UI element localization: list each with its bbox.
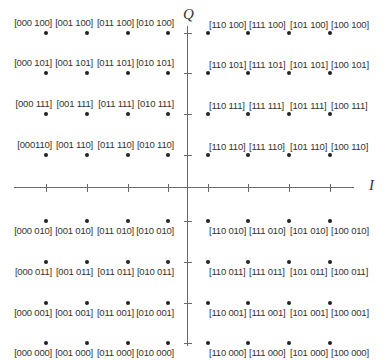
point-label: [000 100]	[14, 17, 52, 28]
q-axis-tick	[184, 343, 192, 344]
point-label: [101 100]	[290, 19, 328, 30]
constellation-point	[206, 112, 210, 116]
q-axis-label: Q	[183, 6, 194, 23]
constellation-point	[166, 260, 170, 264]
point-label: [110 100]	[209, 19, 246, 30]
point-label: [010 011]	[137, 266, 174, 277]
constellation-point	[246, 112, 250, 116]
point-label: [000 111]	[16, 98, 52, 109]
constellation-point	[126, 219, 130, 223]
point-label: [001 000]	[55, 347, 93, 358]
constellation-point	[126, 260, 130, 264]
point-label: [001 001]	[55, 307, 93, 318]
q-axis-tick	[184, 33, 192, 34]
point-label: [000 101]	[14, 57, 52, 68]
constellation-point	[166, 153, 170, 157]
constellation-point	[44, 31, 48, 35]
i-axis-line	[14, 187, 354, 188]
constellation-point	[206, 153, 210, 157]
constellation-point	[206, 71, 210, 75]
point-label: [100 000]	[331, 347, 369, 358]
constellation-point	[85, 301, 89, 305]
point-label: [011 011]	[98, 266, 134, 277]
point-label: [000110]	[17, 139, 52, 150]
q-axis-tick	[184, 73, 192, 74]
q-axis-line	[187, 26, 188, 346]
constellation-point	[166, 112, 170, 116]
constellation-point	[328, 219, 332, 223]
point-label: [101 010]	[290, 225, 328, 236]
constellation-point	[287, 341, 291, 345]
point-label: [101 111]	[290, 100, 326, 111]
i-axis-tick	[128, 184, 129, 192]
constellation-point	[246, 219, 250, 223]
constellation-point	[246, 153, 250, 157]
point-label: [010 000]	[136, 347, 174, 358]
constellation-point	[328, 71, 332, 75]
point-label: [101 000]	[290, 347, 328, 358]
point-label: [001 111]	[57, 98, 93, 109]
constellation-point	[44, 112, 48, 116]
constellation-point	[246, 31, 250, 35]
point-label: [100 011]	[331, 266, 368, 277]
point-label: [111 111]	[249, 100, 284, 111]
constellation-point	[328, 31, 332, 35]
constellation-point	[328, 112, 332, 116]
constellation-point	[85, 260, 89, 264]
point-label: [110 010]	[209, 225, 246, 236]
constellation-point	[246, 71, 250, 75]
constellation-point	[44, 219, 48, 223]
point-label: [010 110]	[137, 139, 174, 150]
constellation-point	[85, 341, 89, 345]
i-axis-tick	[248, 184, 249, 192]
point-label: [111 001]	[249, 307, 285, 318]
point-label: [110 000]	[209, 347, 246, 358]
point-label: [101 011]	[290, 266, 327, 277]
constellation-diagram: Q I [000 100][001 100][011 100][010 100]…	[0, 0, 389, 360]
constellation-point	[126, 301, 130, 305]
i-axis-tick	[289, 184, 290, 192]
i-axis-tick	[208, 184, 209, 192]
constellation-point	[126, 112, 130, 116]
point-label: [111 011]	[249, 266, 285, 277]
point-label: [111 000]	[249, 347, 285, 358]
constellation-point	[166, 31, 170, 35]
constellation-point	[44, 260, 48, 264]
constellation-point	[246, 341, 250, 345]
constellation-point	[126, 71, 130, 75]
point-label: [011 010]	[97, 225, 134, 236]
point-label: [011 111]	[98, 98, 134, 109]
constellation-point	[85, 112, 89, 116]
point-label: [100 100]	[331, 19, 369, 30]
point-label: [100 111]	[331, 100, 367, 111]
point-label: [100 110]	[331, 141, 368, 152]
i-axis-tick	[168, 184, 169, 192]
point-label: [010 010]	[136, 225, 174, 236]
point-label: [101 110]	[290, 141, 327, 152]
constellation-point	[206, 341, 210, 345]
q-axis-tick	[184, 262, 192, 263]
point-label: [011 100]	[97, 17, 134, 28]
point-label: [001 010]	[55, 225, 93, 236]
point-label: [010 101]	[136, 57, 174, 68]
point-label: [011 000]	[97, 347, 134, 358]
constellation-point	[166, 341, 170, 345]
point-label: [011 110]	[98, 139, 134, 150]
constellation-point	[85, 153, 89, 157]
constellation-point	[206, 260, 210, 264]
point-label: [000 011]	[15, 266, 52, 277]
i-axis-label: I	[369, 177, 374, 194]
constellation-point	[246, 301, 250, 305]
i-axis-tick	[46, 184, 47, 192]
constellation-point	[246, 260, 250, 264]
point-label: [111 110]	[249, 141, 285, 152]
i-axis-tick	[87, 184, 88, 192]
point-label: [000 001]	[14, 307, 52, 318]
point-label: [110 110]	[209, 141, 245, 152]
point-label: [011 001]	[97, 307, 134, 318]
constellation-point	[328, 301, 332, 305]
point-label: [001 101]	[55, 57, 93, 68]
constellation-point	[287, 31, 291, 35]
point-label: [110 111]	[209, 100, 245, 111]
q-axis-tick	[184, 155, 192, 156]
